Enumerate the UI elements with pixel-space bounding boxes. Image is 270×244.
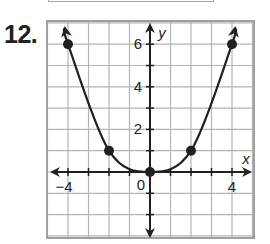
y-tick-label: 4 xyxy=(134,78,142,95)
graph: 246−404xy xyxy=(0,0,270,244)
data-point xyxy=(227,39,237,49)
data-point xyxy=(104,146,114,156)
y-axis-label: y xyxy=(157,24,167,41)
x-tick-label: 4 xyxy=(228,178,236,195)
data-point xyxy=(186,146,196,156)
x-tick-label: −4 xyxy=(55,178,72,195)
axes xyxy=(52,25,250,236)
data-point xyxy=(145,167,155,177)
data-point xyxy=(63,39,73,49)
x-axis-label: x xyxy=(241,150,250,167)
y-tick-label: 6 xyxy=(134,35,142,52)
y-tick-label: 2 xyxy=(134,120,142,137)
origin-label: 0 xyxy=(137,176,145,193)
